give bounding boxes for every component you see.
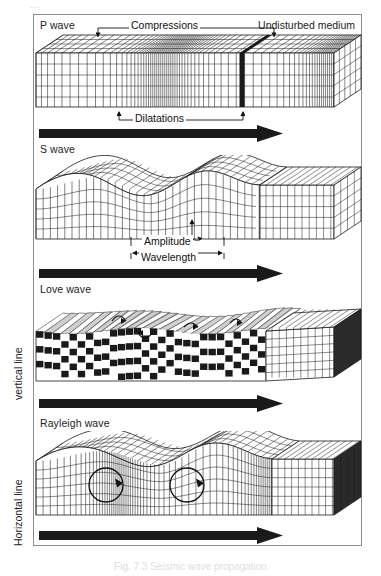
figure-caption: Fig. 7.3 Seismic wave propagation <box>0 561 381 576</box>
side-label-vertical-line: vertical line <box>12 347 24 400</box>
panel-p-wave: P wave Undisturbed medium <box>34 15 361 139</box>
panel-love-wave: Love wave <box>34 281 361 415</box>
rayleigh-wave-propagation-arrow <box>39 527 284 548</box>
wave-label-s-wave: S wave <box>40 143 75 155</box>
figure-frame: P wave Undisturbed medium <box>33 14 362 546</box>
wave-label-p-wave: P wave <box>40 19 75 31</box>
love-wave-propagation-arrow <box>39 395 284 416</box>
p-wave-propagation-arrow <box>39 125 284 146</box>
love-wave-block-diagram <box>34 297 363 383</box>
wave-label-love-wave: Love wave <box>40 283 91 295</box>
side-label-horizontal-line: Horizontal line <box>12 479 24 546</box>
clipped-header-text: ... <box>30 0 360 9</box>
amplitude-label: Amplitude <box>142 235 193 247</box>
panel-rayleigh-wave: Rayleigh wave <box>34 415 361 547</box>
p-wave-block-diagram <box>34 33 363 109</box>
dilatations-label: Dilatations <box>133 112 186 124</box>
panel-s-wave: S wave <box>34 141 361 281</box>
rayleigh-wave-block-diagram <box>34 431 363 523</box>
wavelength-label: Wavelength <box>139 251 198 263</box>
wave-label-rayleigh-wave: Rayleigh wave <box>40 417 110 429</box>
compressions-label: Compressions <box>129 19 200 31</box>
